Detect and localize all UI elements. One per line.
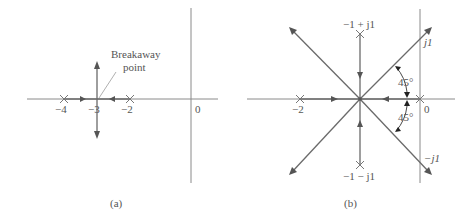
tick-label-neg2-b: −2: [292, 103, 304, 115]
arrow-left-icon: [109, 96, 115, 102]
imag-label-top: j1: [422, 36, 433, 48]
breakaway-leader-line: [99, 72, 116, 98]
panel-b: −1 + j1 −1 − j1 j1 −j1 45° 45° −2 0 (b): [247, 9, 455, 210]
arrow-right-icon: [331, 96, 338, 102]
asymptote-upper-right: [360, 30, 429, 99]
arrow-down-icon: [94, 131, 100, 139]
arrow-down-icon: [357, 72, 363, 79]
arrow-right-icon: [80, 96, 86, 102]
centroid-dot: [358, 97, 362, 101]
angle-arrow-icon: [404, 100, 410, 106]
tick-label-neg2: −2: [121, 103, 133, 115]
tick-label-neg3: −3: [88, 103, 100, 115]
pole-label-upper: −1 + j1: [343, 18, 375, 30]
panel-a: Breakaway point −4 −3 −2 0 (a): [27, 8, 218, 210]
angle-arrow-icon: [395, 127, 401, 132]
tick-label-neg4: −4: [55, 103, 67, 115]
caption-b: (b): [344, 197, 357, 210]
tick-label-zero: 0: [195, 103, 201, 115]
asymptote-upper-left: [292, 30, 360, 99]
arrow-up-icon: [357, 120, 363, 127]
angle-label-upper: 45°: [398, 76, 413, 88]
angle-arrow-icon: [404, 92, 410, 98]
breakaway-label-line2: point: [123, 61, 146, 73]
imag-label-bottom: −j1: [424, 152, 440, 164]
angle-arrow-icon: [395, 66, 401, 71]
arrow-up-icon: [94, 61, 100, 69]
asymptote-lower-right: [360, 99, 429, 172]
breakaway-label-line1: Breakaway: [111, 48, 161, 60]
pole-label-lower: −1 − j1: [343, 170, 375, 182]
tick-label-zero-b: 0: [424, 103, 430, 115]
arrow-left-icon: [382, 96, 389, 102]
root-locus-figure: Breakaway point −4 −3 −2 0 (a): [0, 0, 474, 222]
angle-label-lower: 45°: [398, 111, 413, 123]
caption-a: (a): [110, 197, 123, 210]
